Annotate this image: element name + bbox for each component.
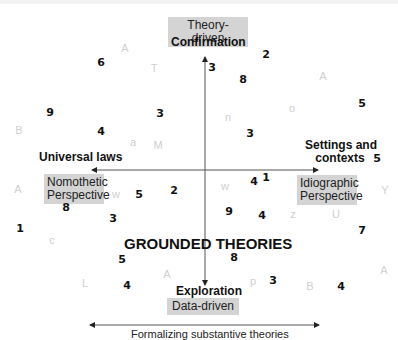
scattered-number: 5 [358,97,366,110]
scattered-number: 4 [123,279,131,292]
scattered-letter: p [250,275,256,287]
settings-contexts-label: Settings and contexts [305,139,375,165]
scattered-letter: M [153,139,162,151]
scattered-number: 7 [358,224,366,237]
exploration-label: Exploration [176,285,242,298]
grounded-theories-title: GROUNDED THEORIES [124,235,292,252]
scattered-letter: L [82,277,88,289]
scattered-letter: B [15,124,22,136]
scattered-number: 3 [269,274,277,287]
nomothetic-perspective-box: Nomothetic Perspective [44,174,104,204]
scattered-letter: c [49,234,55,246]
scattered-number: 8 [239,73,247,86]
scattered-number: 6 [97,56,105,69]
scattered-number: 1 [262,171,270,184]
scattered-letter: A [163,268,170,280]
scattered-number: 3 [156,107,164,120]
scattered-number: 2 [262,48,270,61]
scattered-letter: A [380,264,387,276]
scattered-letter: U [332,208,340,220]
scattered-letter: z [290,208,296,220]
scattered-letter: Y [381,184,388,196]
scattered-letter: w [112,188,120,200]
scattered-number: 4 [337,280,345,293]
scattered-number: 9 [46,106,54,119]
scattered-number: 3 [109,212,117,225]
scattered-number: 2 [170,184,178,197]
scattered-number: 1 [16,222,24,235]
scattered-number: 3 [208,61,216,74]
scattered-letter: T [151,62,158,74]
universal-laws-label: Universal laws [39,151,122,164]
data-driven-box: Data-driven [167,298,239,315]
confirmation-label: Confirmation [171,36,246,49]
scattered-letter: B [306,280,313,292]
scattered-letter: a [130,136,136,148]
formalizing-caption: Formalizing substantive theories [131,328,289,340]
scattered-letter: A [121,42,128,54]
scattered-number: 8 [230,251,238,264]
scattered-number: 9 [225,205,233,218]
scattered-letter: w [221,180,229,192]
scattered-number: 5 [118,253,126,266]
scattered-letter: A [14,183,21,195]
scattered-letter: n [225,111,231,123]
idiographic-line2: Perspective [300,190,354,203]
scattered-number: 4 [250,175,258,188]
scattered-number: 5 [373,152,381,165]
scattered-number: 4 [97,125,105,138]
scattered-number: 8 [62,201,70,214]
scattered-letter: o [289,102,295,114]
idiographic-perspective-box: Idiographic Perspective [297,175,357,205]
scattered-number: 3 [246,127,254,140]
scattered-number: 4 [258,209,266,222]
nomothetic-line2: Perspective [47,189,101,202]
settings-line2: contexts [305,152,375,165]
scattered-number: 5 [135,188,143,201]
scattered-letter: A [319,70,326,82]
